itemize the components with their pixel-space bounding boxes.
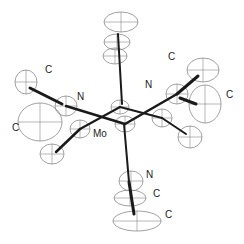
lbl-n-right: N xyxy=(145,80,152,90)
bond xyxy=(80,107,120,129)
lbl-n-bottom: N xyxy=(146,170,153,180)
bond xyxy=(162,118,186,134)
bond xyxy=(124,124,129,182)
bond xyxy=(56,129,80,152)
lbl-c-upper-right: C xyxy=(168,52,175,62)
atom-top-c3 xyxy=(104,12,138,32)
molecular-structure-diagram xyxy=(0,0,244,244)
lbl-n-left: N xyxy=(77,92,84,102)
lbl-mo: Mo xyxy=(93,129,107,139)
lbl-c-right: C xyxy=(226,90,233,100)
atom-top-c1 xyxy=(103,48,127,64)
atom-top-c2 xyxy=(104,34,130,50)
lbl-c-left: C xyxy=(12,123,19,133)
lbl-c-upper-left: C xyxy=(45,65,52,75)
lbl-c-bottom-2: C xyxy=(165,210,172,220)
lbl-c-bottom-1: C xyxy=(153,189,160,199)
atom-c-bottom-2 xyxy=(113,211,161,231)
atom-c-right-far xyxy=(187,58,219,82)
bond xyxy=(118,34,122,104)
bond xyxy=(30,88,62,104)
atom-c-right-low xyxy=(178,126,202,148)
bond xyxy=(125,94,177,124)
atom-c-left-big xyxy=(18,103,62,141)
